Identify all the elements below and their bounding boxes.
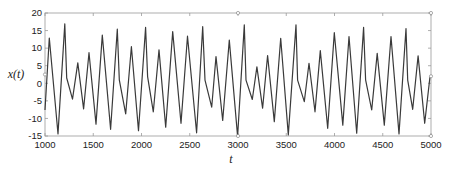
y-tick-label: 10 bbox=[31, 42, 42, 53]
axis-marker-icon bbox=[236, 11, 239, 14]
plot-frame bbox=[45, 13, 431, 136]
x-tick-label: 5000 bbox=[420, 139, 441, 150]
axis-marker-icon bbox=[429, 75, 432, 78]
axis-marker-icon bbox=[429, 134, 432, 137]
series-line-x-t bbox=[45, 24, 430, 136]
y-axis-ticks: -15-10-505101520 bbox=[28, 7, 431, 141]
x-tick-label: 4000 bbox=[324, 139, 345, 150]
y-tick-label: -5 bbox=[34, 95, 42, 106]
axis-marker-icon bbox=[43, 73, 46, 76]
y-tick-label: -10 bbox=[28, 113, 42, 124]
axis-markers bbox=[43, 11, 432, 137]
time-series-chart: -15-10-505101520 10001500200025003000350… bbox=[0, 0, 454, 172]
y-tick-label: 5 bbox=[37, 60, 42, 71]
y-tick-label: 15 bbox=[31, 25, 42, 36]
x-tick-label: 3000 bbox=[227, 139, 248, 150]
x-tick-label: 4500 bbox=[372, 139, 393, 150]
axis-marker-icon bbox=[236, 134, 239, 137]
x-tick-label: 1500 bbox=[83, 139, 104, 150]
axis-marker-icon bbox=[429, 11, 432, 14]
y-axis-label: x(t) bbox=[7, 67, 25, 81]
x-tick-label: 3500 bbox=[276, 139, 297, 150]
x-tick-label: 1000 bbox=[34, 139, 55, 150]
x-tick-label: 2000 bbox=[131, 139, 152, 150]
x-axis-label: t bbox=[229, 152, 233, 166]
y-tick-label: 20 bbox=[31, 7, 42, 18]
x-tick-label: 2500 bbox=[179, 139, 200, 150]
y-tick-label: 0 bbox=[37, 78, 42, 89]
